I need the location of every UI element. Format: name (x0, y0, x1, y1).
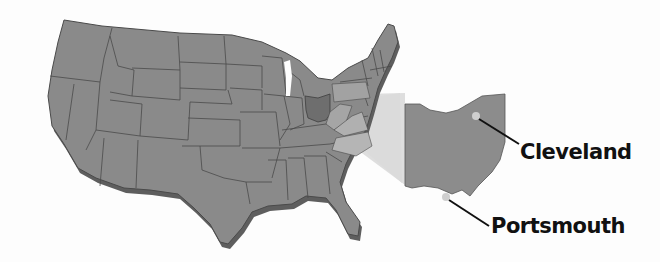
portsmouth-label: Portsmouth (491, 214, 625, 238)
cleveland-dot (472, 112, 480, 120)
cleveland-label: Cleveland (520, 140, 632, 164)
ohio-highlight (305, 94, 330, 122)
ohio-inset (405, 94, 505, 196)
portsmouth-leader (449, 200, 489, 226)
portsmouth-dot (442, 193, 450, 201)
